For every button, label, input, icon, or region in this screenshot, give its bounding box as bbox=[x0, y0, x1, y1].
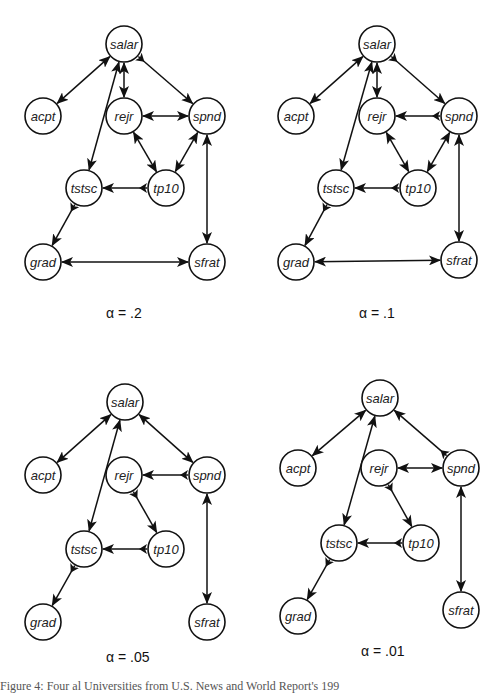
node-label: tp10 bbox=[408, 536, 434, 551]
node-grad: grad bbox=[278, 244, 314, 280]
node-grad: grad bbox=[280, 598, 316, 634]
graph-panel: salaracptrejrspndtstsctp10gradsfratα = .… bbox=[25, 384, 225, 665]
node-tp10: tp10 bbox=[400, 170, 436, 206]
node-spnd: spnd bbox=[189, 457, 225, 493]
node-label: sfrat bbox=[446, 253, 473, 268]
node-label: tstsc bbox=[71, 542, 98, 557]
node-label: tstsc bbox=[323, 181, 350, 196]
node-salar: salar bbox=[107, 384, 143, 420]
node-tp10: tp10 bbox=[403, 525, 439, 561]
directed-edge-tstsc-grad bbox=[307, 560, 329, 600]
node-label: sfrat bbox=[194, 615, 221, 630]
directed-edge-spnd-salar bbox=[394, 410, 446, 455]
node-acpt: acpt bbox=[280, 450, 316, 486]
graph-panel: salaracptrejrspndtstsctp10gradsfratα = .… bbox=[280, 380, 479, 659]
node-label: spnd bbox=[445, 109, 474, 124]
node-label: salar bbox=[363, 37, 392, 52]
node-label: salar bbox=[111, 395, 140, 410]
node-spnd: spnd bbox=[189, 98, 225, 134]
causal-graph-figure: salaracptrejrspndtstsctp10gradsfratα = .… bbox=[0, 0, 502, 694]
bidirected-edge-spnd-tp10 bbox=[175, 133, 197, 172]
node-grad: grad bbox=[25, 244, 61, 280]
bidirected-edge-salar-acpt bbox=[312, 410, 365, 455]
alpha-label: α = .2 bbox=[106, 305, 142, 321]
node-spnd: spnd bbox=[443, 450, 479, 486]
bidirected-edge-spnd-tp10 bbox=[427, 133, 449, 172]
bidirected-edge-rejr-tp10 bbox=[386, 133, 408, 172]
directed-edge-salar-spnd bbox=[138, 56, 192, 103]
alpha-label: α = .01 bbox=[361, 643, 405, 659]
node-label: acpt bbox=[31, 109, 57, 124]
node-label: rejr bbox=[115, 468, 134, 483]
node-label: rejr bbox=[368, 109, 387, 124]
node-tp10: tp10 bbox=[148, 531, 184, 567]
node-label: salar bbox=[366, 391, 395, 406]
bidirected-edge-salar-acpt bbox=[310, 57, 363, 104]
node-label: acpt bbox=[286, 461, 312, 476]
node-label: spnd bbox=[447, 461, 476, 476]
edges bbox=[305, 57, 459, 262]
directed-edge-salar-spnd bbox=[391, 57, 444, 104]
node-label: tstsc bbox=[326, 536, 353, 551]
node-label: salar bbox=[110, 37, 139, 52]
edges bbox=[307, 410, 461, 599]
node-label: grad bbox=[285, 609, 312, 624]
alpha-label: α = .05 bbox=[106, 649, 150, 665]
bidirected-edge-salar-spnd bbox=[139, 415, 193, 463]
figure-caption: Figure 4: Four al Universities from U.S.… bbox=[0, 679, 502, 694]
node-label: acpt bbox=[31, 468, 57, 483]
node-rejr: rejr bbox=[106, 98, 142, 134]
panels-layer: salaracptrejrspndtstsctp10gradsfratα = .… bbox=[25, 26, 479, 665]
bidirected-edge-grad-sfrat bbox=[315, 260, 440, 262]
node-label: sfrat bbox=[194, 255, 221, 270]
node-tp10: tp10 bbox=[148, 170, 184, 206]
node-tstsc: tstsc bbox=[321, 525, 357, 561]
node-tstsc: tstsc bbox=[66, 531, 102, 567]
directed-edge-tstsc-grad bbox=[52, 566, 74, 606]
node-acpt: acpt bbox=[25, 98, 61, 134]
node-label: tstsc bbox=[71, 181, 98, 196]
alpha-label: α = .1 bbox=[359, 305, 395, 321]
bidirected-edge-rejr-tp10 bbox=[134, 132, 157, 171]
edges bbox=[52, 415, 207, 606]
node-acpt: acpt bbox=[278, 98, 314, 134]
node-label: tp10 bbox=[153, 181, 179, 196]
node-spnd: spnd bbox=[441, 98, 477, 134]
node-acpt: acpt bbox=[25, 457, 61, 493]
edges bbox=[52, 56, 207, 262]
directed-edge-rejr-tp10 bbox=[133, 492, 156, 533]
node-sfrat: sfrat bbox=[443, 592, 479, 628]
node-label: rejr bbox=[370, 461, 389, 476]
node-sfrat: sfrat bbox=[189, 244, 225, 280]
bidirected-edge-salar-acpt bbox=[57, 415, 111, 463]
node-label: sfrat bbox=[448, 603, 475, 618]
node-label: acpt bbox=[284, 109, 310, 124]
node-tstsc: tstsc bbox=[66, 170, 102, 206]
node-salar: salar bbox=[359, 26, 395, 62]
node-label: spnd bbox=[193, 109, 222, 124]
node-sfrat: sfrat bbox=[441, 242, 477, 278]
directed-edge-tstsc-grad bbox=[305, 205, 327, 246]
node-rejr: rejr bbox=[361, 450, 397, 486]
node-label: rejr bbox=[115, 109, 134, 124]
directed-edge-rejr-tp10 bbox=[388, 485, 411, 527]
node-rejr: rejr bbox=[359, 98, 395, 134]
node-grad: grad bbox=[25, 604, 61, 640]
graph-panel: salaracptrejrspndtstsctp10gradsfratα = .… bbox=[278, 26, 477, 321]
directed-edge-tstsc-grad bbox=[52, 205, 75, 246]
node-sfrat: sfrat bbox=[189, 604, 225, 640]
node-label: tp10 bbox=[153, 542, 179, 557]
node-label: spnd bbox=[193, 468, 222, 483]
bidirected-edge-salar-acpt bbox=[57, 57, 110, 104]
graph-panel: salaracptrejrspndtstsctp10gradsfratα = .… bbox=[25, 26, 225, 321]
node-label: grad bbox=[30, 255, 57, 270]
node-tstsc: tstsc bbox=[318, 170, 354, 206]
node-salar: salar bbox=[362, 380, 398, 416]
node-label: tp10 bbox=[405, 181, 431, 196]
nodes: salaracptrejrspndtstsctp10gradsfrat bbox=[25, 26, 225, 280]
node-rejr: rejr bbox=[106, 457, 142, 493]
node-salar: salar bbox=[106, 26, 142, 62]
node-label: grad bbox=[30, 615, 57, 630]
node-label: grad bbox=[283, 255, 310, 270]
